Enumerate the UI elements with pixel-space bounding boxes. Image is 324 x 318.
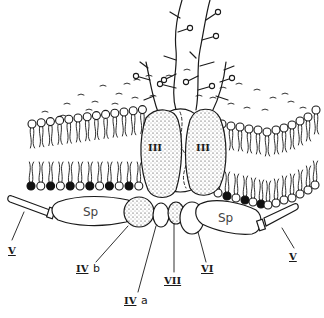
charge-mark <box>64 103 70 104</box>
lipid-tail <box>104 118 105 138</box>
lipid-head <box>264 201 272 209</box>
charge-mark <box>254 89 260 90</box>
lipid-tail <box>113 117 114 137</box>
lipid-tail <box>108 162 109 182</box>
lipid-tail <box>285 132 287 152</box>
lipid-tail <box>58 124 59 144</box>
lipid-tail <box>285 176 287 196</box>
band3-right-label: III <box>196 142 210 153</box>
sialic-acid-terminus <box>215 9 220 14</box>
lipid-tail <box>265 136 266 156</box>
lipid-head <box>56 116 64 124</box>
band4-1b-sphere <box>124 197 154 227</box>
lipid-tail <box>30 128 31 148</box>
band4-1a-sphere <box>153 203 169 227</box>
lipid-head <box>92 112 100 120</box>
charge-mark <box>78 94 84 95</box>
charge-mark <box>300 107 306 108</box>
charge-mark <box>100 85 106 86</box>
lipid-tail <box>293 174 295 194</box>
lipid-head <box>280 124 288 132</box>
band7-label: VII <box>163 275 181 286</box>
band-labels: V IV b IV a VII VI V <box>7 245 297 307</box>
lipid-tail <box>234 174 235 194</box>
charge-mark <box>184 69 190 70</box>
sialic-acid-terminus <box>161 77 166 82</box>
band4-1a-suffix: a <box>141 294 148 307</box>
charge-mark <box>132 97 138 98</box>
lipid-head <box>65 115 73 123</box>
lipid-head <box>312 106 320 114</box>
lipid-head <box>227 122 235 130</box>
lipid-head <box>28 120 36 128</box>
lipid-tail <box>52 162 54 182</box>
lipid-tail <box>107 118 109 138</box>
charge-mark <box>228 103 234 104</box>
lipid-head <box>263 128 271 136</box>
lipid-tail <box>301 125 303 145</box>
lipid-tail <box>282 132 283 152</box>
lipid-tail <box>71 162 73 182</box>
sialic-acid-terminus <box>183 79 188 84</box>
lipid-head <box>249 198 257 206</box>
lipid-head <box>120 108 128 116</box>
band5-left-label: V <box>7 245 16 256</box>
lipid-tail <box>262 180 264 200</box>
lipid-tail <box>229 130 230 150</box>
band6-label: VI <box>200 263 214 274</box>
lipid-tail <box>238 131 239 151</box>
lipid-head <box>76 182 84 190</box>
lipid-tail <box>130 162 132 182</box>
charge-mark <box>60 115 66 116</box>
membrane-diagram: GP III III Sp Sp <box>0 0 324 318</box>
lipid-tail <box>317 114 319 134</box>
spectrin-left-label: Sp <box>83 205 98 219</box>
lipid-head <box>296 117 304 125</box>
lipid-tail <box>79 122 81 142</box>
lipid-head <box>102 110 110 118</box>
lipid-tail <box>228 172 230 192</box>
lipid-tail <box>29 162 30 182</box>
lipid-head <box>288 121 296 129</box>
charge-mark <box>92 101 98 102</box>
lipid-tail <box>125 116 127 136</box>
charge-mark <box>86 109 92 110</box>
lipid-tail <box>290 129 291 149</box>
lipid-tail <box>88 162 89 182</box>
lipid-tail <box>61 124 63 144</box>
lipid-tail <box>42 162 44 182</box>
charge-mark <box>288 101 294 102</box>
lipid-tail <box>33 128 35 148</box>
lipid-tail <box>101 162 103 182</box>
sialic-acid-terminus <box>133 73 138 78</box>
lipid-tail <box>306 121 307 141</box>
charge-mark <box>210 97 216 98</box>
lipid-head <box>37 119 45 127</box>
lipid-head <box>115 182 123 190</box>
band3-left-label: III <box>148 142 162 153</box>
lipid-tail <box>274 134 275 154</box>
lipid-tail <box>97 120 99 140</box>
lipid-tail <box>70 123 72 143</box>
lipid-head <box>105 182 113 190</box>
lipid-head <box>74 114 82 122</box>
lipid-tail <box>134 115 136 135</box>
charge-mark <box>262 109 268 110</box>
lipid-tail <box>243 176 244 196</box>
lipid-head <box>288 194 296 202</box>
lipid-tail <box>42 127 44 147</box>
band4-1a-roman: IV <box>124 295 137 306</box>
lipid-tail <box>120 162 122 182</box>
lipid-tail <box>274 179 275 199</box>
lipid-tail <box>237 174 239 194</box>
band4-1b-roman: IV <box>76 263 89 274</box>
sialic-acid-terminus <box>213 33 218 38</box>
carbohydrate-chains <box>133 0 234 112</box>
lipid-head <box>125 182 133 190</box>
lipid-tail <box>309 166 311 186</box>
band3-protein-left: III <box>141 110 182 198</box>
lipid-tail <box>98 162 99 182</box>
charge-mark <box>244 107 250 108</box>
lipid-tail <box>250 133 252 153</box>
charge-mark <box>42 111 48 112</box>
